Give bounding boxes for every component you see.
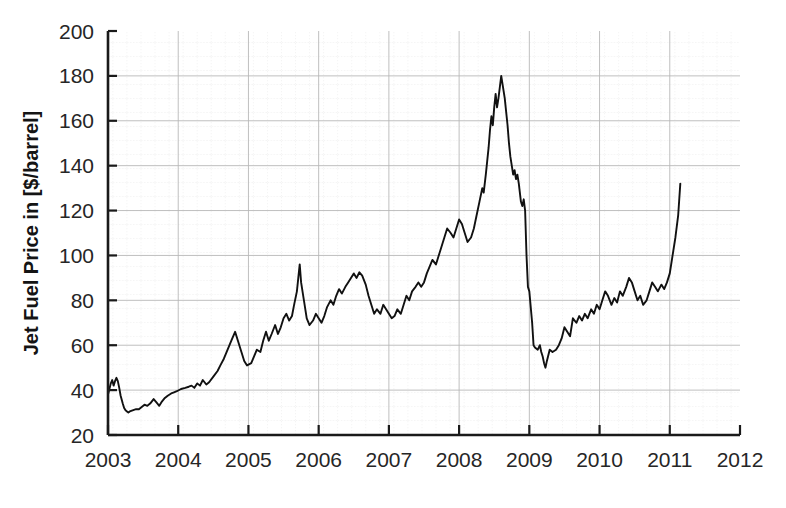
x-tick-label: 2012 (717, 448, 764, 471)
x-tick-label: 2009 (506, 448, 553, 471)
x-tick-label: 2007 (366, 448, 413, 471)
x-tick-label: 2006 (295, 448, 342, 471)
plot-area (108, 31, 740, 435)
y-tick-label: 20 (71, 424, 94, 447)
chart-canvas: 20406080100120140160180200 2003200420052… (0, 0, 786, 508)
x-tick-label: 2010 (576, 448, 623, 471)
x-tick-label: 2005 (225, 448, 272, 471)
y-tick-label: 80 (71, 289, 94, 312)
jet-fuel-price-chart: 20406080100120140160180200 2003200420052… (0, 0, 786, 508)
y-tick-label: 200 (59, 20, 94, 43)
x-tick-label: 2003 (85, 448, 132, 471)
y-tick-label: 100 (59, 244, 94, 267)
y-tick-label: 60 (71, 334, 94, 357)
y-tick-label: 160 (59, 109, 94, 132)
x-tick-label: 2008 (436, 448, 483, 471)
y-tick-label: 120 (59, 199, 94, 222)
y-tick-label: 180 (59, 64, 94, 87)
y-tick-label: 140 (59, 154, 94, 177)
y-axis-title: Jet Fuel Price in [$/barrel] (20, 111, 42, 356)
x-tick-label: 2004 (155, 448, 202, 471)
y-tick-label: 40 (71, 379, 94, 402)
x-tick-label: 2011 (647, 448, 692, 471)
